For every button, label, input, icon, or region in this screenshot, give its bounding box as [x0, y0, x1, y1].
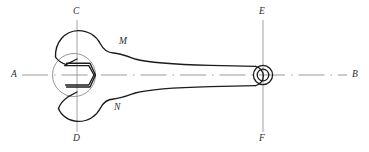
label-head-top: C [73, 7, 79, 17]
wrench-body-outline [55, 31, 263, 122]
label-head-bottom: D [73, 134, 80, 144]
label-jaw-lower: N [114, 103, 120, 113]
label-axis-left: A [11, 70, 17, 80]
hex-inner-edge-lower [66, 75, 94, 85]
hex-inner-edge-upper [65, 66, 94, 75]
lower-jaw-inner-flank [59, 92, 78, 109]
drawing-canvas: A B C D E F M N [0, 0, 369, 152]
label-jaw-upper: M [119, 37, 127, 47]
centerlines [22, 20, 347, 132]
upper-contour [55, 31, 255, 67]
label-hole-bottom: F [259, 134, 265, 144]
wrench-drawing [0, 0, 369, 152]
label-axis-right: B [352, 70, 358, 80]
label-hole-top: E [259, 7, 265, 17]
